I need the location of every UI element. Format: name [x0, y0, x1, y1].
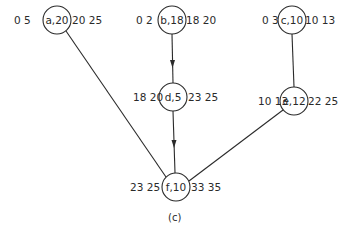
edge-c-e: [292, 34, 294, 87]
node-f-left-times: 23 25: [130, 181, 160, 193]
node-d-right-times: 23 25: [188, 91, 218, 103]
node-c-right-times: 10 13: [305, 14, 335, 26]
node-b-label: b,18: [157, 14, 187, 26]
edge-e-f: [189, 110, 283, 181]
arrowhead-icon: [172, 140, 177, 148]
arrowhead-icon: [170, 60, 175, 68]
edge-a-f: [66, 31, 166, 177]
node-c-label: c,10: [277, 14, 307, 26]
node-c-left-times: 0 3: [262, 14, 279, 26]
node-b-left-times: 0 2: [136, 14, 153, 26]
figure-caption: (c): [168, 212, 181, 223]
node-d-left-times: 18 20: [133, 91, 163, 103]
node-f-label: f,10: [161, 181, 191, 193]
node-e-right-times: 22 25: [308, 95, 338, 107]
node-a-label: a,20: [42, 14, 72, 26]
node-a-right-times: 20 25: [72, 14, 102, 26]
node-e-left-times: 10 13: [258, 95, 288, 107]
node-a-left-times: 0 5: [14, 14, 31, 26]
edge-b-d: [172, 34, 173, 83]
node-b-right-times: 18 20: [186, 14, 216, 26]
node-f-right-times: 33 35: [191, 181, 221, 193]
